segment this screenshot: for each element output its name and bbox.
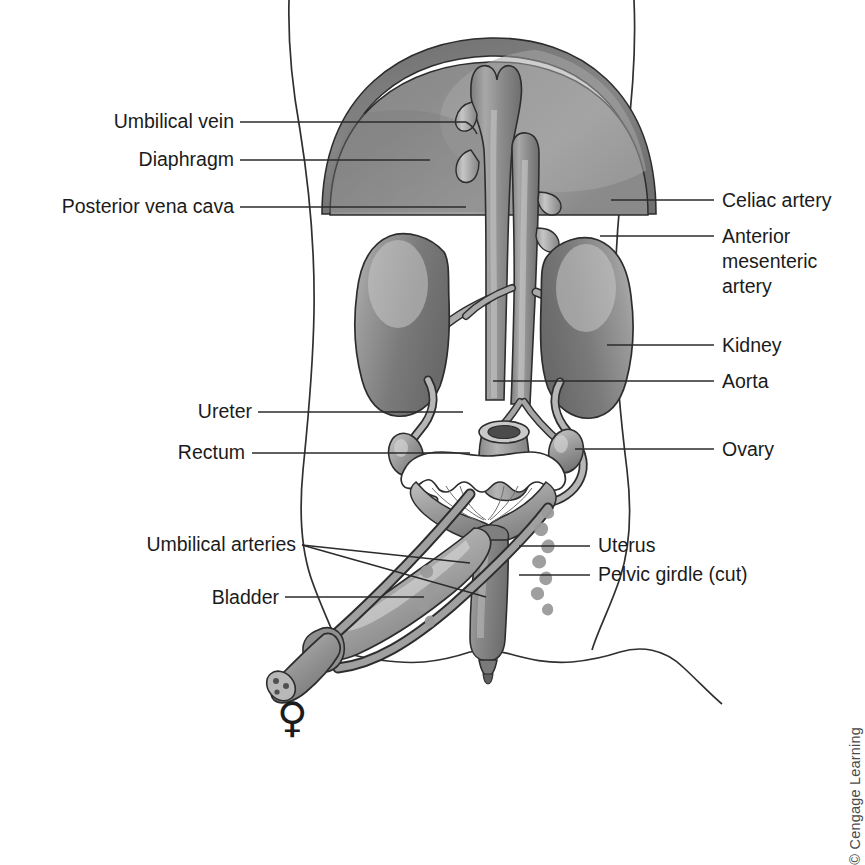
label-ureter: Ureter xyxy=(198,400,253,422)
urogenital-papilla xyxy=(483,674,493,684)
label-uterus: Uterus xyxy=(598,534,656,556)
label-kidney: Kidney xyxy=(722,334,782,356)
body-outline-bottom xyxy=(340,649,722,704)
kidney-right-highlight xyxy=(556,244,616,332)
label-celiac-artery: Celiac artery xyxy=(722,189,832,211)
label-rectum: Rectum xyxy=(178,441,245,463)
kidney-left-highlight xyxy=(368,240,428,328)
label-anterior-mesenteric-artery-line3: artery xyxy=(722,275,772,297)
label-ovary: Ovary xyxy=(722,438,774,460)
copyright-credit: © Cengage Learning xyxy=(847,727,863,865)
label-anterior-mesenteric-artery-line1: Anterior xyxy=(722,225,791,247)
label-pelvic-girdle: Pelvic girdle (cut) xyxy=(598,563,748,585)
vena-cava-highlight xyxy=(490,110,497,398)
female-sex-symbol: ♀ xyxy=(277,697,308,739)
ovary-right-highlight xyxy=(554,435,568,453)
label-diaphragm: Diaphragm xyxy=(139,148,234,170)
label-posterior-vena-cava: Posterior vena cava xyxy=(62,195,234,217)
label-bladder: Bladder xyxy=(212,586,280,608)
label-umbilical-arteries: Umbilical arteries xyxy=(146,533,296,555)
uterine-horn-frill-outline xyxy=(401,452,565,492)
label-anterior-mesenteric-artery-line2: mesenteric xyxy=(722,250,818,272)
rectum-cut-lumen xyxy=(488,426,520,439)
ovary-left-highlight xyxy=(394,439,408,457)
label-umbilical-vein: Umbilical vein xyxy=(114,110,234,132)
label-aorta: Aorta xyxy=(722,370,769,392)
